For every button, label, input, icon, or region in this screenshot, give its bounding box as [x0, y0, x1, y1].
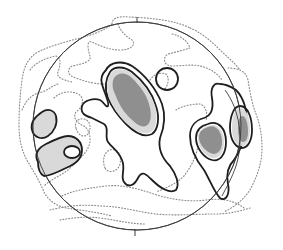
dotted-contour-bottom-band-3	[60, 217, 146, 224]
stereonet-diagram: stereonet-contour-plot	[0, 0, 283, 250]
dark-fill-central	[113, 74, 151, 127]
maximum-central	[82, 63, 178, 192]
dotted-contour-left	[22, 56, 72, 110]
light-fill-west-upper	[32, 110, 57, 138]
maximum-east	[190, 84, 252, 199]
stereonet-svg	[0, 0, 283, 250]
maximum-west	[32, 110, 82, 176]
dotted-contour-bottom-band-1	[62, 186, 244, 208]
solid-contour-small-circle	[156, 68, 178, 90]
dotted-contour-small-loop	[75, 119, 90, 136]
dotted-contour-top-middle	[165, 34, 222, 80]
